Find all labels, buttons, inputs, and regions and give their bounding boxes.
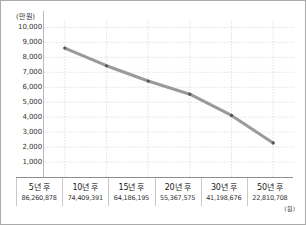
x-axis-separator bbox=[247, 178, 248, 206]
x-axis-separator bbox=[62, 178, 63, 206]
line-chart-svg bbox=[44, 20, 294, 177]
x-axis-category-value: 55,367,575 bbox=[155, 193, 201, 203]
x-axis-category-value: 74,409,391 bbox=[62, 193, 108, 203]
y-axis-tick-label: 4,000 bbox=[22, 113, 42, 121]
x-axis-category-cell: 15년 후64,186,195 bbox=[108, 180, 154, 210]
x-axis-separator bbox=[201, 178, 202, 206]
x-axis-category-label: 10년 후 bbox=[62, 182, 108, 193]
x-axis-category-cell: 5년 후86,260,878 bbox=[16, 180, 62, 210]
y-axis-tick-label: 6,000 bbox=[22, 83, 42, 91]
series-line bbox=[65, 48, 273, 143]
data-point-marker bbox=[230, 114, 233, 117]
x-axis-category-cell: 10년 후74,409,391 bbox=[62, 180, 108, 210]
y-axis-tick-label: 1,000 bbox=[22, 158, 42, 166]
x-axis-separator bbox=[108, 178, 109, 206]
x-axis-category-value: 22,810,708 bbox=[247, 193, 293, 203]
x-axis-category-label: 50년 후 bbox=[247, 182, 293, 193]
x-axis-category-value: 64,186,195 bbox=[108, 193, 154, 203]
chart-figure: (만 원) 10,0009,0008,0007,0006,0005,0004,0… bbox=[0, 0, 306, 225]
y-axis-tick-label: 8,000 bbox=[22, 53, 42, 61]
plot-area bbox=[44, 20, 294, 177]
data-point-marker bbox=[63, 46, 66, 49]
y-axis-tick-label: 2,000 bbox=[22, 143, 42, 151]
vertical-gridlines bbox=[65, 20, 273, 177]
y-axis-tick-label: 7,000 bbox=[22, 68, 42, 76]
x-axis-category-cell: 30년 후41,198,676 bbox=[201, 180, 247, 210]
y-axis-tick-label: 9,000 bbox=[22, 38, 42, 46]
data-point-marker bbox=[188, 93, 191, 96]
x-axis-category-cell: 20년 후55,367,575 bbox=[155, 180, 201, 210]
x-axis-category-value: 41,198,676 bbox=[201, 193, 247, 203]
x-axis-category-label: 20년 후 bbox=[155, 182, 201, 193]
data-point-marker bbox=[147, 79, 150, 82]
y-axis-tick-label: 3,000 bbox=[22, 128, 42, 136]
data-point-marker bbox=[105, 64, 108, 67]
x-axis-category-label: 30년 후 bbox=[201, 182, 247, 193]
y-axis-tick-label: 5,000 bbox=[22, 98, 42, 106]
x-axis-category-label: 5년 후 bbox=[16, 182, 62, 193]
value-unit-label: (원) bbox=[284, 204, 295, 213]
data-point-marker bbox=[272, 141, 275, 144]
y-axis-tick-label: 10,000 bbox=[18, 23, 42, 31]
x-axis-category-value: 86,260,878 bbox=[16, 193, 62, 203]
x-axis-separator bbox=[155, 178, 156, 206]
x-axis-categories: 5년 후86,260,87810년 후74,409,39115년 후64,186… bbox=[16, 180, 293, 210]
y-axis-tick-labels: 10,0009,0008,0007,0006,0005,0004,0003,00… bbox=[14, 20, 42, 177]
x-axis-category-label: 15년 후 bbox=[108, 182, 154, 193]
x-axis-separator bbox=[16, 178, 17, 206]
gridlines bbox=[44, 27, 294, 162]
